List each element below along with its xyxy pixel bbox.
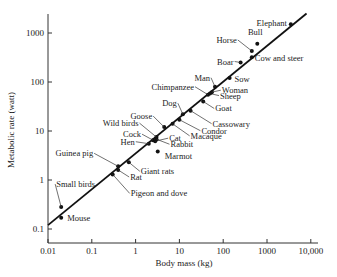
x-tick-label: 0.1 [86,246,97,256]
label-dog: Dog [162,98,177,108]
point-sow [228,76,232,80]
y-tick-label: 1 [40,175,45,185]
leader-line [179,120,200,131]
data-points: MouseSmall birdsRatPigeon and doveGuinea… [55,18,303,222]
leader-line [94,153,118,166]
x-tick-label: 0.01 [40,246,56,256]
leader-line [129,162,140,171]
label-man: Man [194,73,210,83]
label-goose: Goose [130,111,152,121]
y-tick-label: 10 [35,126,45,136]
label-horse: Horse [216,35,237,45]
label-mouse: Mouse [67,213,90,223]
label-cock: Cock [123,129,142,139]
label-chimpanzee: Chimpanzee [152,82,195,92]
x-tick-label: 10,000 [298,246,323,256]
y-tick-label: 0.1 [33,224,44,234]
y-tick-label: 100 [31,77,45,87]
leader-line [238,40,252,51]
label-giant-rats: Giant rats [141,166,174,176]
leader-line [178,103,183,114]
leader-line [195,87,208,95]
leader-line [191,111,212,124]
scatter-chart: 0.010.1110100100010,0000.11101001000 Mou… [0,0,337,277]
point-marmot [156,150,160,154]
leader-line [139,123,156,137]
label-woman: Woman [222,85,249,95]
x-tick-label: 1 [133,246,138,256]
leader-line [136,142,149,144]
x-tick-label: 1000 [258,246,277,256]
point-cow-and-steer [250,55,254,59]
point-elephant [289,22,293,26]
point-bull [255,42,259,46]
x-tick-label: 10 [175,246,185,256]
label-cassowary: Cassowary [213,119,251,129]
label-goat: Goat [215,103,232,113]
y-axis-title: Metabolic rate (watt) [6,92,16,168]
leader-line [142,134,153,140]
leader-line [113,174,130,193]
x-tick-label: 100 [216,246,230,256]
leader-line [156,139,169,144]
label-boar: Boar [217,57,234,67]
label-sow: Sow [235,74,251,84]
x-axis-title: Body mass (kg) [156,258,213,268]
leader-line [118,170,129,177]
label-guinea-pig: Guinea pig [56,148,94,158]
y-tick-label: 1000 [26,28,45,38]
label-marmot: Marmot [165,151,193,161]
label-small-birds: Small birds [56,179,95,189]
leader-line [153,116,164,127]
leader-line [211,78,215,87]
label-elephant: Elephant [257,18,288,28]
leader-line [203,101,214,108]
label-cow-and-steer: Cow and steer [255,53,304,63]
label-pigeon-and-dove: Pigeon and dove [131,188,188,198]
point-mouse [59,216,63,220]
